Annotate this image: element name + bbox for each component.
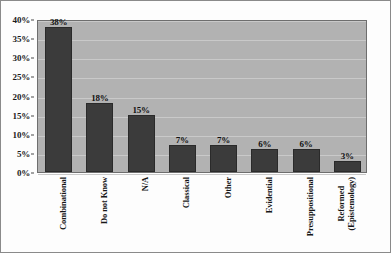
bar-value-label: 18% <box>91 93 108 103</box>
x-tick-label: Presuppositional <box>285 175 326 253</box>
x-tick-label: Evidential <box>243 175 284 253</box>
x-tick-label-text: Classical <box>181 177 191 208</box>
x-tick-label-text: Reformed(Epistemology) <box>336 177 356 230</box>
x-tick-label-line: Reformed <box>336 177 346 230</box>
plot-area: 38%18%15%7%7%6%6%3% <box>37 20 367 173</box>
x-tick-label: Classical <box>161 175 202 253</box>
x-tick-label-text: Combinational <box>58 177 68 230</box>
y-tick-mark <box>31 20 34 21</box>
bar[interactable] <box>169 145 196 172</box>
bar-value-label: 7% <box>176 135 189 145</box>
bar[interactable] <box>293 149 320 172</box>
x-tick-label: N/A <box>120 175 161 253</box>
bar-value-label: 38% <box>50 17 67 27</box>
y-tick-mark <box>31 173 34 174</box>
bar[interactable] <box>86 103 113 172</box>
x-tick-label-text: N/A <box>140 177 150 191</box>
y-tick-label: 40% <box>13 15 30 25</box>
bar-value-label: 6% <box>258 139 271 149</box>
bar-value-label: 3% <box>341 151 354 161</box>
x-tick-label-text: Evidential <box>264 177 274 213</box>
y-tick-mark <box>31 134 34 135</box>
x-tick-label: Reformed(Epistemology) <box>326 175 367 253</box>
y-tick-mark <box>31 153 34 154</box>
y-tick-label: 25% <box>13 72 30 82</box>
x-tick-label: Combinational <box>37 175 78 253</box>
y-tick-mark <box>31 77 34 78</box>
y-tick-label: 5% <box>17 149 30 159</box>
bars-layer: 38%18%15%7%7%6%6%3% <box>38 21 366 172</box>
bar-value-label: 7% <box>217 135 230 145</box>
x-tick-label-line: (Epistemology) <box>346 177 356 230</box>
bar[interactable] <box>210 145 237 172</box>
y-tick-label: 30% <box>13 53 30 63</box>
bar[interactable] <box>251 149 278 172</box>
x-axis: CombinationalDo not KnowN/AClassicalOthe… <box>37 175 367 253</box>
bar-value-label: 6% <box>300 139 313 149</box>
y-tick-label: 35% <box>13 34 30 44</box>
bar[interactable] <box>45 27 72 172</box>
y-tick-mark <box>31 115 34 116</box>
y-axis: 0%5%10%15%20%25%30%35%40% <box>1 20 34 173</box>
chart-screenshot: 0%5%10%15%20%25%30%35%40% 38%18%15%7%7%6… <box>0 0 391 253</box>
bar-value-label: 15% <box>132 105 149 115</box>
bar[interactable] <box>128 115 155 172</box>
y-tick-mark <box>31 39 34 40</box>
x-tick-label: Do not Know <box>78 175 119 253</box>
x-tick-label-text: Do not Know <box>99 177 109 224</box>
x-tick-label-text: Other <box>223 177 233 198</box>
y-tick-mark <box>31 96 34 97</box>
y-tick-label: 15% <box>13 111 30 121</box>
x-tick-label: Other <box>202 175 243 253</box>
y-tick-label: 20% <box>13 92 30 102</box>
bar[interactable] <box>334 161 361 172</box>
y-tick-mark <box>31 58 34 59</box>
y-tick-label: 10% <box>13 130 30 140</box>
y-tick-label: 0% <box>17 168 30 178</box>
x-tick-label-text: Presuppositional <box>305 177 315 236</box>
